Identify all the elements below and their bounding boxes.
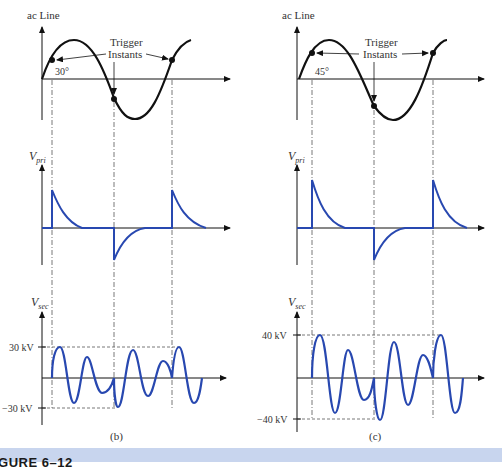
- trigger-label-b-2: Instants: [108, 48, 142, 60]
- vsec-neg-tick-b: −30 kV: [2, 403, 33, 414]
- vpri-waveform-b: [42, 190, 206, 260]
- caption-band: [0, 448, 502, 462]
- vpri-label-b: Vpri: [29, 149, 46, 165]
- vsec-neg-tick-c: −40 kV: [257, 414, 288, 425]
- trigger-guides-c: [312, 80, 433, 419]
- trigger-dot-b-2: [111, 96, 117, 102]
- trigger-guides-b: [52, 80, 172, 408]
- ac-line-label-c: ac Line: [282, 9, 315, 21]
- vsec-label-c: Vsec: [288, 295, 306, 311]
- vsec-ref-lines-c: [297, 335, 440, 419]
- trigger-label-c-1: Trigger: [365, 36, 398, 48]
- vsec-pos-tick-c: 40 kV: [262, 330, 288, 341]
- trigger-dot-c-1: [309, 50, 315, 56]
- vsec-label-b: Vsec: [31, 295, 49, 311]
- trigger-label-c-2: Instants: [363, 48, 397, 60]
- panel-c: ac Line Trigger Instants 45° Vpri Vsec 4…: [257, 9, 484, 443]
- angle-label-b: 30°: [55, 66, 69, 77]
- trigger-label-b-1: Trigger: [110, 36, 143, 48]
- trigger-dot-c-2: [371, 103, 377, 109]
- panel-label-c: (c): [369, 430, 382, 443]
- angle-label-c: 45°: [315, 66, 329, 77]
- panel-label-b: (b): [110, 430, 123, 443]
- vsec-waveform-b: [52, 347, 202, 407]
- figure-caption: IGURE 6–12: [0, 455, 73, 470]
- vsec-pos-tick-b: 30 kV: [9, 342, 35, 353]
- trigger-dot-b-3: [169, 57, 175, 63]
- vpri-label-c: Vpri: [288, 149, 305, 165]
- trigger-dot-b-1: [49, 57, 55, 63]
- panel-b: ac Line Trigger Instants 30° Vpri Vsec: [2, 9, 230, 443]
- vpri-waveform-c: [297, 180, 467, 260]
- ac-line-label-b: ac Line: [27, 9, 60, 21]
- trigger-dot-c-3: [430, 50, 436, 56]
